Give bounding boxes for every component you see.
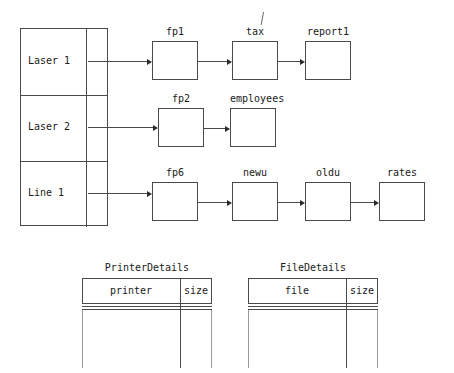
relation-header-rule: [248, 309, 378, 310]
relation-body-right-border: [377, 310, 378, 368]
relation-column-header-size: size: [346, 285, 378, 297]
relation-header-rule: [82, 309, 212, 310]
relation-column-header-size: size: [180, 285, 212, 297]
relation-body-left-border: [82, 310, 83, 368]
relation-header-rule: [82, 306, 212, 307]
relation-table-title-PrinterDetails: PrinterDetails: [82, 262, 212, 274]
relation-body-right-border: [211, 310, 212, 368]
relation-table-title-FileDetails: FileDetails: [248, 262, 378, 274]
relation-body-left-border: [248, 310, 249, 368]
relation-column-header-file: file: [248, 285, 346, 297]
relation-tables-area: PrinterDetailsprintersizeFileDetailsfile…: [0, 0, 454, 373]
diagram-canvas: Laser 1 Laser 2 Line 1 fp1taxreport1 fp2…: [0, 0, 454, 373]
relation-column-header-printer: printer: [82, 285, 180, 297]
relation-header-rule: [248, 306, 378, 307]
